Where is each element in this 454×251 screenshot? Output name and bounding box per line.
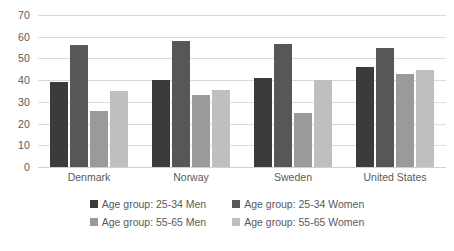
gridline-0 <box>38 167 446 168</box>
legend-row: Age group: 25-34 MenAge group: 25-34 Wom… <box>90 198 365 210</box>
bar <box>376 48 394 167</box>
y-axis: 010203040506070 <box>0 0 34 182</box>
x-axis-category-label: Sweden <box>274 171 312 183</box>
bar-group <box>344 15 446 167</box>
bar <box>70 45 88 167</box>
y-axis-tick-label: 20 <box>18 118 30 130</box>
bar-group <box>242 15 344 167</box>
bar <box>254 78 272 167</box>
bar-group <box>140 15 242 167</box>
y-axis-tick-label: 40 <box>18 74 30 86</box>
bar <box>172 41 190 167</box>
bar <box>192 95 210 167</box>
y-axis-tick-label: 30 <box>18 96 30 108</box>
bar <box>50 82 68 167</box>
y-axis-tick-label: 70 <box>18 9 30 21</box>
legend-swatch-icon <box>232 200 240 208</box>
y-axis-tick-label: 0 <box>24 161 30 173</box>
bar <box>274 44 292 167</box>
x-axis-category-label: Norway <box>173 171 209 183</box>
chart-legend: Age group: 25-34 MenAge group: 25-34 Wom… <box>0 198 454 228</box>
legend-item[interactable]: Age group: 25-34 Men <box>90 198 207 210</box>
x-axis-category-label: Denmark <box>68 171 111 183</box>
bar <box>152 80 170 167</box>
bars-layer <box>38 15 446 167</box>
legend-label: Age group: 55-65 Women <box>244 216 364 228</box>
legend-label: Age group: 25-34 Men <box>102 198 207 210</box>
legend-item[interactable]: Age group: 55-65 Women <box>232 216 364 228</box>
bar <box>294 113 312 167</box>
legend-row: Age group: 55-65 MenAge group: 55-65 Wom… <box>90 216 365 228</box>
bar <box>110 91 128 167</box>
bar-chart: 010203040506070 DenmarkNorwaySwedenUnite… <box>0 0 454 251</box>
bar <box>416 70 434 167</box>
bar-group <box>38 15 140 167</box>
x-axis: DenmarkNorwaySwedenUnited States <box>38 171 446 189</box>
bar <box>396 74 414 167</box>
bar <box>212 90 230 167</box>
y-axis-tick-label: 60 <box>18 31 30 43</box>
x-axis-category-label: United States <box>363 171 426 183</box>
y-axis-tick-label: 10 <box>18 139 30 151</box>
legend-item[interactable]: Age group: 25-34 Women <box>232 198 364 210</box>
bar <box>90 111 108 167</box>
legend-label: Age group: 25-34 Women <box>244 198 364 210</box>
y-axis-tick-label: 50 <box>18 52 30 64</box>
bar <box>314 80 332 167</box>
bar <box>356 67 374 167</box>
legend-swatch-icon <box>232 218 240 226</box>
legend-label: Age group: 55-65 Men <box>102 216 207 228</box>
legend-item[interactable]: Age group: 55-65 Men <box>90 216 207 228</box>
legend-swatch-icon <box>90 200 98 208</box>
legend-swatch-icon <box>90 218 98 226</box>
